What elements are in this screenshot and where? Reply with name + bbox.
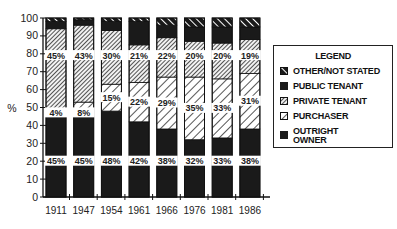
x-tick-label: 1954 [100,205,123,216]
outright-owner-label: 33% [213,156,231,166]
private-tenant-label: 21% [130,51,148,61]
legend-title: LEGEND [274,51,392,61]
bar-segment-other-not-stated [46,18,66,22]
bar-segment-private-tenant [46,29,66,110]
purchaser-label: 35% [185,103,203,113]
legend-label: OUTRIGHT OWNER [293,127,353,145]
legend-item-private-tenant: PRIVATE TENANT [280,97,383,106]
legend-label: PRIVATE TENANT [293,97,383,106]
private-tenant-label: 20% [185,51,203,61]
outright-owner-label: 32% [185,156,203,166]
outright-owner-swatch-icon [280,131,288,139]
bar-segment-private-tenant [212,43,232,79]
x-tick-label: 1966 [156,205,179,216]
bar-segment-other-not-stated [240,18,260,27]
private-tenant-label: 20% [213,51,231,61]
other-not-stated-swatch-icon [280,67,288,75]
bar-segment-public-tenant [74,20,94,25]
y-tick-label: 80 [26,47,38,59]
y-tick-label: 40 [26,119,38,131]
legend-label: PURCHASER [293,112,383,121]
x-tick-label: 1911 [45,205,67,216]
legend-item-outright-owner: OUTRIGHT OWNER [280,127,353,145]
bar-segment-other-not-stated [157,18,177,25]
x-tick-label: 1976 [183,205,206,216]
private-tenant-swatch-icon [280,97,288,105]
bar-segment-other-not-stated [212,18,232,27]
bar-segment-private-tenant [74,25,94,102]
public-tenant-swatch-icon [280,82,288,90]
y-tick-label: 100 [20,12,38,24]
legend-label: PUBLIC TENANT [293,82,383,91]
bar-segment-outright-owner [101,111,121,197]
y-axis-label: % [7,102,16,114]
purchaser-label: 29% [158,98,176,108]
purchaser-label: 31% [241,96,259,106]
legend-item-other: OTHER/NOT STATED [280,67,383,76]
bar-segment-public-tenant [157,25,177,38]
outright-owner-label: 48% [102,156,120,166]
purchaser-label: 22% [130,97,148,107]
bar-segment-public-tenant [129,22,149,45]
x-tick-label: 1986 [239,205,262,216]
y-tick-label: 50 [26,101,38,113]
private-tenant-label: 22% [158,51,176,61]
bar-segment-outright-owner [212,138,232,197]
x-tick-label: 1981 [211,205,234,216]
y-tick-label: 90 [26,29,38,41]
y-tick-label: 10 [26,173,38,185]
outright-owner-label: 42% [130,156,148,166]
bar-segment-public-tenant [212,27,232,43]
bar-segment-other-not-stated [129,18,149,22]
y-tick-label: 60 [26,83,38,95]
y-tick-label: 70 [26,65,38,77]
bar-segment-outright-owner [185,140,205,197]
y-tick-label: 20 [26,155,38,167]
bar-segment-public-tenant [46,22,66,29]
purchaser-label: 4% [49,108,62,118]
legend: LEGEND OTHER/NOT STATED PUBLIC TENANT PR… [273,45,393,148]
outright-owner-label: 45% [47,156,65,166]
outright-owner-label: 38% [158,156,176,166]
legend-item-purchaser: PURCHASER [280,112,383,121]
purchaser-swatch-icon [280,112,288,120]
purchaser-label: 8% [77,108,90,118]
outright-owner-label: 45% [75,156,93,166]
private-tenant-label: 45% [47,51,65,61]
legend-label: OTHER/NOT STATED [293,67,383,76]
bar-segment-other-not-stated [101,18,121,22]
bar-segment-other-not-stated [185,18,205,27]
y-tick-label: 0 [32,191,38,203]
x-tick-label: 1961 [128,205,151,216]
private-tenant-label: 30% [102,51,120,61]
private-tenant-label: 19% [241,51,259,61]
x-tick-label: 1947 [73,205,96,216]
purchaser-label: 33% [213,103,231,113]
private-tenant-label: 43% [75,51,93,61]
bar-segment-public-tenant [240,27,260,40]
bar-segment-public-tenant [101,22,121,31]
legend-item-public-tenant: PUBLIC TENANT [280,82,383,91]
bar-segment-public-tenant [185,27,205,41]
y-tick-label: 30 [26,137,38,149]
outright-owner-label: 38% [241,156,259,166]
purchaser-label: 15% [102,93,120,103]
